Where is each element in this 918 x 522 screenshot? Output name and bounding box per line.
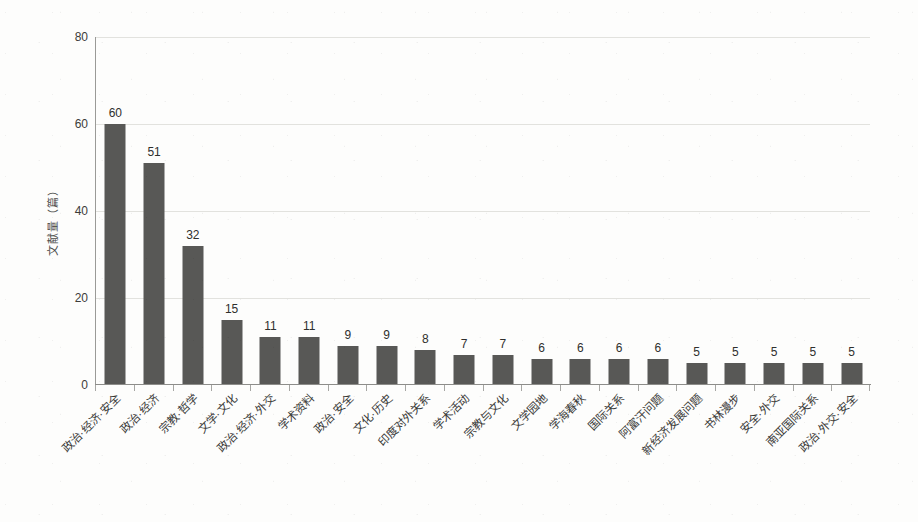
bar-value-label: 9 <box>383 329 390 341</box>
y-axis-tick-label: 60 <box>58 118 88 130</box>
bar[interactable] <box>221 320 242 385</box>
x-axis-tick <box>793 385 794 391</box>
bar[interactable] <box>764 363 785 385</box>
bar[interactable] <box>841 363 862 385</box>
bar-slot: 5 <box>716 37 755 385</box>
bar[interactable] <box>105 124 126 385</box>
bar-slot: 6 <box>600 37 639 385</box>
x-axis-tick <box>599 385 600 391</box>
bar-value-label: 51 <box>147 146 160 158</box>
x-axis-tick <box>676 385 677 391</box>
bar-value-label: 5 <box>693 346 700 358</box>
x-axis-tick <box>521 385 522 391</box>
x-axis-tick-marks <box>95 385 871 392</box>
bar[interactable] <box>415 350 436 385</box>
y-axis-tick-label: 20 <box>58 292 88 304</box>
x-axis-tick <box>560 385 561 391</box>
plot-area: 60513215111199877666655555 <box>95 37 870 385</box>
bar[interactable] <box>647 359 668 385</box>
bar-slot: 6 <box>522 37 561 385</box>
x-axis-category-labels: 政治·经济·安全政治·经济宗教·哲学文学·文化政治·经济·外交学术资料政治·安全… <box>95 392 871 512</box>
y-axis-tick-label: 0 <box>58 379 88 391</box>
bar-value-label: 7 <box>461 338 468 350</box>
bar[interactable] <box>260 337 281 385</box>
bar-slot: 5 <box>832 37 871 385</box>
bar-value-label: 7 <box>500 338 507 350</box>
bar-value-label: 60 <box>109 107 122 119</box>
bar[interactable] <box>376 346 397 385</box>
bar-value-label: 5 <box>732 346 739 358</box>
bar-value-label: 5 <box>771 346 778 358</box>
bar-value-label: 6 <box>577 342 584 354</box>
x-axis-tick <box>754 385 755 391</box>
bar-value-label: 32 <box>186 229 199 241</box>
bar[interactable] <box>686 363 707 385</box>
x-axis-tick <box>173 385 174 391</box>
bar-value-label: 6 <box>616 342 623 354</box>
bar-slot: 9 <box>329 37 368 385</box>
bar[interactable] <box>802 363 823 385</box>
bar-slot: 8 <box>406 37 445 385</box>
bar-slot: 5 <box>677 37 716 385</box>
x-axis-tick <box>715 385 716 391</box>
bar-value-label: 9 <box>345 329 352 341</box>
x-axis-tick <box>95 385 96 391</box>
bar-slot: 51 <box>135 37 174 385</box>
bar-slot: 7 <box>445 37 484 385</box>
y-axis-tick-label: 40 <box>58 205 88 217</box>
bar-value-label: 6 <box>538 342 545 354</box>
bar-slot: 6 <box>561 37 600 385</box>
x-axis-tick <box>134 385 135 391</box>
bar-value-label: 6 <box>655 342 662 354</box>
bar[interactable] <box>299 337 320 385</box>
x-axis-tick <box>366 385 367 391</box>
bar[interactable] <box>609 359 630 385</box>
x-axis-tick <box>869 385 870 391</box>
bar-slot: 11 <box>290 37 329 385</box>
bar-value-label: 11 <box>303 320 315 332</box>
y-axis-tick-label: 80 <box>58 31 88 43</box>
bar-slot: 7 <box>484 37 523 385</box>
x-axis-tick <box>211 385 212 391</box>
bar-slot: 9 <box>367 37 406 385</box>
bar-value-label: 5 <box>848 346 855 358</box>
bar-slot: 6 <box>639 37 678 385</box>
x-axis-tick <box>405 385 406 391</box>
bar-slot: 5 <box>794 37 833 385</box>
bar[interactable] <box>492 355 513 385</box>
bar-value-label: 5 <box>810 346 817 358</box>
bar[interactable] <box>454 355 475 385</box>
bar-slot: 60 <box>96 37 135 385</box>
bar[interactable] <box>531 359 552 385</box>
bar-value-label: 15 <box>225 303 238 315</box>
bar-slot: 11 <box>251 37 290 385</box>
bar[interactable] <box>725 363 746 385</box>
x-axis-tick <box>250 385 251 391</box>
bar[interactable] <box>182 246 203 385</box>
x-axis-tick <box>483 385 484 391</box>
bar-series: 60513215111199877666655555 <box>96 37 870 385</box>
bar[interactable] <box>337 346 358 385</box>
x-axis-tick <box>289 385 290 391</box>
x-axis-tick <box>328 385 329 391</box>
bar[interactable] <box>570 359 591 385</box>
bar-chart: 文献量（篇） 020406080 60513215111199877666655… <box>0 0 918 522</box>
bar-slot: 5 <box>755 37 794 385</box>
bar[interactable] <box>144 163 165 385</box>
bar-value-label: 8 <box>422 333 429 345</box>
x-axis-tick <box>831 385 832 391</box>
bar-value-label: 11 <box>264 320 276 332</box>
x-axis-tick <box>444 385 445 391</box>
x-axis-tick <box>638 385 639 391</box>
bar-slot: 15 <box>212 37 251 385</box>
bar-slot: 32 <box>174 37 213 385</box>
